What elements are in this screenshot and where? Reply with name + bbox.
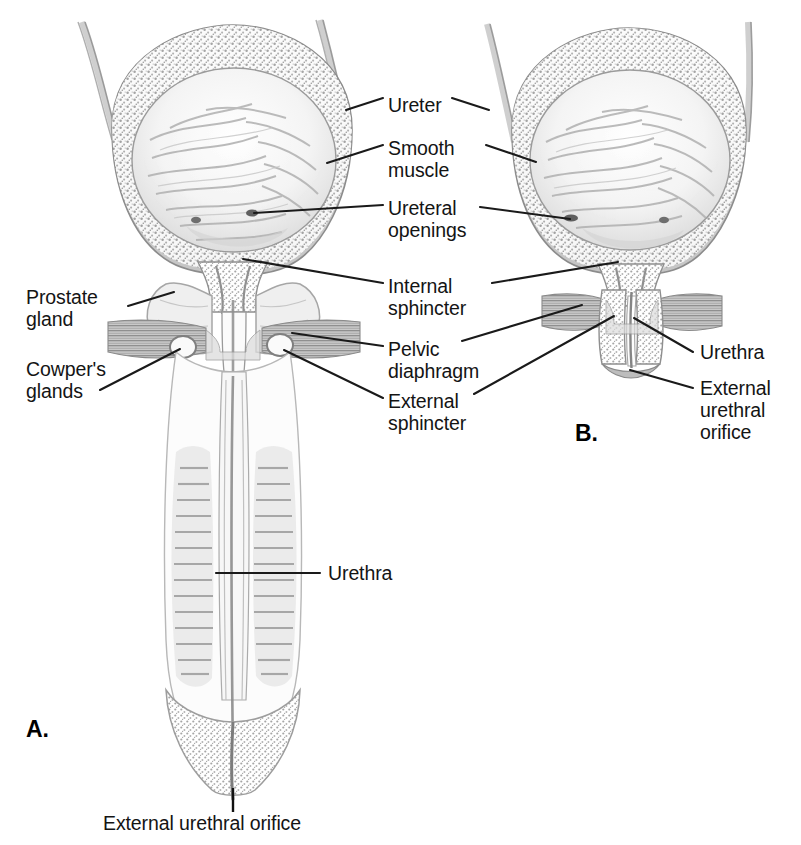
label-cowpers-glands-line1: Cowper's [26,358,106,380]
label-external-sphincter-line2: sphincter [388,412,466,434]
leader-external-urethral-orifice-b [630,370,693,388]
label-prostate-gland-line1: Prostate [26,286,98,308]
label-ureter: Ureter [388,94,442,116]
label-urethra-a: Urethra [328,562,392,584]
label-prostate-gland-line2: gland [26,308,73,330]
panel-a-illustration [78,20,360,812]
penis-shaft-a [164,352,301,800]
label-internal-sphincter-line1: Internal [388,275,452,297]
label-smooth-muscle-line2: muscle [388,159,449,181]
bladder-lumen-a [132,68,336,252]
label-smooth-muscle-line1: Smooth [388,137,455,159]
penile-urethra-a [219,372,249,700]
label-pelvic-diaphragm-line1: Pelvic [388,338,439,360]
anatomy-figure: Ureter Smooth muscle Ureteral openings I… [0,0,801,845]
ureteral-opening-left-a [191,217,201,223]
cowpers-gland-left-a [170,336,196,358]
leader-external-sphincter-right [474,316,614,394]
panel-b-illustration [487,22,752,378]
ureter-right-b [746,22,752,142]
panel-letter-a: A. [26,716,49,743]
bladder-lumen-b [530,70,730,250]
leader-ureter-left [346,98,383,110]
label-external-sphincter-line1: External [388,390,459,412]
label-cowpers-glands-line2: glands [26,380,83,402]
label-ureteral-openings-line2: openings [388,219,466,241]
ureteral-opening-right-b [659,217,669,223]
label-external-urethral-orifice-b-line3: orifice [700,421,751,443]
label-pelvic-diaphragm-line2: diaphragm [388,360,479,382]
label-ureteral-openings-line1: Ureteral [388,197,457,219]
label-internal-sphincter-line2: sphincter [388,297,466,319]
leader-ureter-right [452,98,489,110]
label-external-urethral-orifice-a: External urethral orifice [103,812,301,834]
label-external-urethral-orifice-b-line2: urethral [700,399,765,421]
panel-letter-b: B. [575,420,598,447]
label-urethra-b: Urethra [700,341,764,363]
label-external-urethral-orifice-b-line1: External [700,377,771,399]
